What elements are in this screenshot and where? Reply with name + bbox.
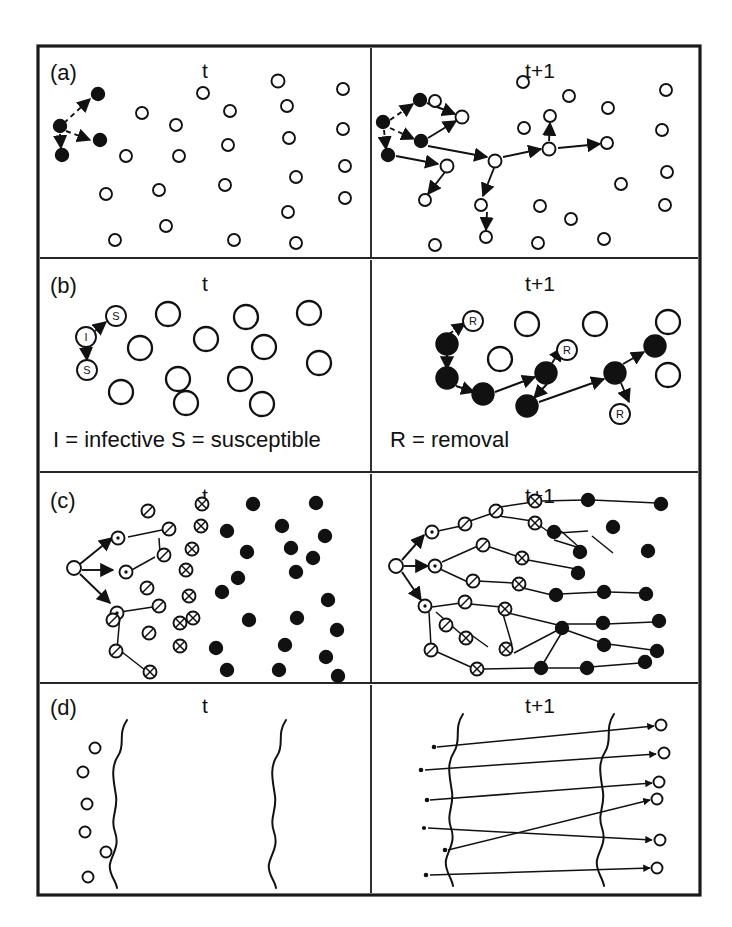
open-circle-node <box>166 367 190 391</box>
infection-arrow <box>390 128 414 139</box>
open-circle-node <box>441 160 454 173</box>
spread-arrow <box>428 146 487 157</box>
spread-arrow <box>80 538 112 564</box>
filled-circle-node <box>535 362 557 384</box>
crossed-circle-node <box>499 603 512 616</box>
filled-circle-node <box>653 615 666 628</box>
open-circle-node <box>656 124 668 136</box>
open-circle-node <box>252 335 276 359</box>
infection-arrow <box>95 322 106 331</box>
open-circle-node <box>90 743 101 754</box>
open-circle-node <box>456 111 469 124</box>
node-letter-r: R <box>616 408 624 420</box>
open-circle-node <box>153 184 165 196</box>
filled-circle-node <box>574 546 587 559</box>
panel-label-d: (d) <box>50 695 77 720</box>
filled-circle-node <box>221 525 234 538</box>
filled-circle-node <box>247 498 260 511</box>
node-letter-s: S <box>83 364 90 376</box>
filled-circle-node <box>241 546 254 559</box>
filled-circle-node <box>276 520 289 533</box>
filled-circle-node <box>273 664 286 677</box>
panel-d-left-content <box>78 720 287 888</box>
filled-circle-node <box>598 639 611 652</box>
filled-circle-node <box>472 383 494 405</box>
open-circle-node <box>78 767 89 778</box>
open-circle-node <box>652 863 663 874</box>
filled-circle-node <box>581 662 594 675</box>
migration-arrow <box>430 868 650 875</box>
open-circle-node <box>80 827 91 838</box>
open-circle-node <box>250 392 274 416</box>
lettered-circle-node-S: S <box>106 306 126 326</box>
slashed-circle-node <box>158 549 171 562</box>
filled-circle-node <box>651 645 664 658</box>
crossed-circle-node <box>529 495 542 508</box>
tiny-dot-node <box>422 826 426 830</box>
open-circle-node <box>480 231 492 243</box>
open-circle-node <box>120 150 132 162</box>
open-circle-node <box>194 327 218 351</box>
open-circle-node <box>583 312 607 336</box>
filled-circle-node <box>94 134 107 147</box>
spread-arrow <box>483 168 494 196</box>
filled-circle-node <box>598 586 611 599</box>
filled-circle-node <box>320 651 333 664</box>
open-circle-node <box>656 720 667 731</box>
open-circle-node <box>615 178 627 190</box>
slashed-circle-node <box>107 614 120 627</box>
open-circle-node <box>659 199 671 211</box>
filled-circle-node <box>556 622 569 635</box>
migration-arrow <box>448 800 650 850</box>
spread-arrow <box>428 172 445 194</box>
open-circle-node <box>100 188 112 200</box>
tiny-dot-node <box>424 873 429 878</box>
open-circle-node <box>101 847 112 858</box>
node-letter-i: I <box>84 331 87 343</box>
open-circle-node <box>170 119 182 131</box>
filled-circle-node <box>54 120 67 133</box>
open-circle-node <box>419 194 431 206</box>
panel-label-b: (b) <box>50 273 77 298</box>
open-circle-node <box>661 166 673 178</box>
filled-circle-node <box>291 612 304 625</box>
panel-c-right-content <box>389 494 668 676</box>
panel-c-left-content <box>67 497 345 683</box>
crossed-circle-node <box>144 666 157 679</box>
panel-d-time-t1: t+1 <box>525 694 555 717</box>
open-circle-node <box>660 84 672 96</box>
open-circle-node <box>219 179 231 191</box>
dotted-circle-node <box>112 532 125 545</box>
open-circle-node <box>224 105 236 117</box>
open-circle-node <box>234 305 258 329</box>
migration-arrow <box>428 828 652 840</box>
open-circle-node <box>655 835 666 846</box>
barrier-line <box>446 714 463 886</box>
open-circle-node <box>281 100 293 112</box>
migration-arrow <box>425 754 656 770</box>
filled-circle-node <box>279 639 292 652</box>
slashed-circle-node <box>459 518 472 531</box>
crossed-circle-node <box>460 632 473 645</box>
crossed-circle-node <box>186 543 199 556</box>
open-circle-node <box>601 137 613 149</box>
spread-arrow <box>456 386 474 392</box>
open-circle-node <box>197 87 209 99</box>
filled-circle-node <box>597 617 610 630</box>
panel-d-time-t: t <box>202 694 208 717</box>
node-letter-r: R <box>469 315 477 327</box>
slashed-circle-node <box>467 575 480 588</box>
filled-circle-node <box>550 589 563 602</box>
slashed-circle-node <box>440 619 453 632</box>
open-circle-node <box>544 110 556 122</box>
spread-arrow <box>428 121 456 138</box>
figure-root: (a) t t+1 <box>0 0 732 927</box>
panel-b-left-content: I S S I = infective S = susceptible <box>53 301 331 452</box>
panel-a-time-t1: t+1 <box>525 59 555 82</box>
open-circle-node <box>517 76 529 88</box>
lettered-circle-node-R: R <box>610 404 630 424</box>
node-letter-r: R <box>563 344 571 356</box>
open-circle-node <box>290 171 302 183</box>
open-circle-node <box>475 199 487 211</box>
crossed-circle-node <box>513 578 526 591</box>
